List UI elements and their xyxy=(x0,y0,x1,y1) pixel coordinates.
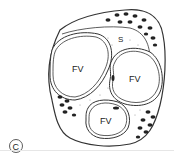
vesicle-label-right: FV xyxy=(129,74,141,84)
vesicle-label-top-left: FV xyxy=(72,64,84,74)
space-label: S xyxy=(118,35,123,44)
vesicle-label-bottom: FV xyxy=(100,116,112,126)
diagram-figure: FV FV FV S C xyxy=(0,0,174,161)
small-body-1 xyxy=(112,75,115,81)
small-body-2 xyxy=(113,107,119,110)
bottom-rule xyxy=(0,150,174,151)
